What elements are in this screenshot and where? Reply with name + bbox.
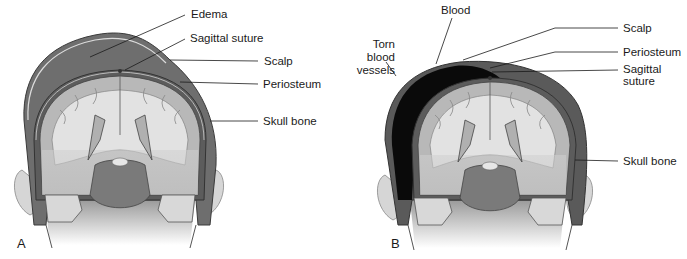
label-skull-bone-a: Skull bone [263, 115, 317, 128]
panel-letter-a: A [17, 236, 26, 251]
label-periosteum-a: Periosteum [263, 78, 321, 91]
brainstem-a [90, 160, 150, 208]
subgaleal-hematoma-diagram: Edema Sagittal suture Scalp Periosteum S… [0, 0, 687, 259]
brainstem-b [460, 165, 520, 211]
panel-letter-b: B [391, 236, 400, 251]
label-periosteum-b: Periosteum [623, 46, 681, 59]
panel-b-artwork [377, 61, 592, 250]
label-torn-l3: vessels [341, 64, 395, 77]
label-scalp-a: Scalp [264, 55, 293, 68]
label-scalp-b: Scalp [623, 22, 652, 35]
label-skull-bone-b: Skull bone [623, 155, 677, 168]
panel-a-artwork [14, 33, 223, 248]
label-blood: Blood [441, 4, 470, 17]
label-edema: Edema [191, 8, 227, 21]
diagram-artwork [0, 0, 687, 259]
label-torn-l2: blood [351, 51, 395, 64]
label-torn-l1: Torn [361, 38, 395, 51]
label-sagittal-l2: suture [623, 75, 655, 88]
label-sagittal-suture-a: Sagittal suture [190, 32, 264, 45]
